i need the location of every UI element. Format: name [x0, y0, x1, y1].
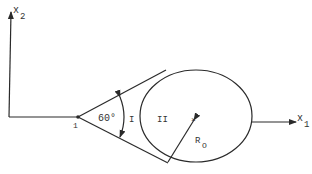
region-ii-label: II: [157, 115, 168, 125]
radius-label: R: [195, 136, 201, 146]
angle-arc: [120, 97, 124, 137]
vertex-label: 1: [73, 121, 78, 130]
x2-axis-label: x: [13, 5, 19, 16]
radius-subscript: O: [202, 141, 207, 150]
diagram-canvas: x 2 1 60° I II × R O x 1: [0, 0, 312, 174]
region-i-label: I: [129, 115, 134, 125]
x1-axis-label: x: [297, 113, 303, 124]
x1-axis-subscript: 1: [304, 120, 309, 130]
x2-axis: [9, 12, 11, 117]
angle-label: 60°: [98, 113, 116, 124]
upper-tangent-line: [78, 70, 166, 117]
x2-axis-subscript: 2: [20, 12, 25, 22]
radius-line: [168, 120, 194, 162]
